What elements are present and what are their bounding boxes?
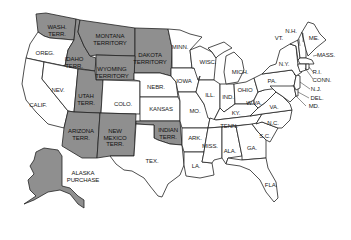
label-wisc: WISC. [200,59,217,66]
label-wyoming: WYOMING TERRITORY [95,66,129,79]
label-ri: R.I. [313,69,322,76]
label-nev: NEV. [51,87,64,94]
label-sc: S.C. [259,133,270,140]
label-wash: WASH. TERR. [48,24,67,37]
label-arizona: ARIZONA TERR. [68,128,94,141]
label-mo: MO. [189,108,200,115]
label-kansas: KANSAS [149,106,173,113]
label-tex: TEX. [146,158,159,165]
label-montana: MONTANA TERRITORY [93,33,127,46]
label-ny: N.Y. [279,61,290,68]
label-nh: N.H. [285,28,297,35]
region-mass [298,58,314,64]
label-nebr: NEBR. [147,84,165,91]
region-fla [226,158,278,202]
region-conn [298,64,306,72]
label-idaho: IDAHO TERR. [65,56,84,69]
label-alaska: ALASKA PURCHASE [67,170,100,183]
label-ga: GA. [247,145,257,152]
label-me: ME. [309,35,319,42]
label-newmexico: NEW MEXICO TERR. [103,128,126,148]
label-md: MD. [309,103,320,110]
label-nj: N.J. [311,86,321,93]
label-mass: MASS. [317,52,335,59]
label-colo: COLO. [114,101,132,108]
label-mich: MICH. [232,69,249,76]
label-la: LA. [192,163,201,170]
label-calif: CALIF. [29,102,46,109]
label-ind: IND. [222,94,234,101]
label-miss: MISS. [202,143,218,150]
label-oreg: OREG. [36,50,55,57]
label-ala: ALA. [224,148,237,155]
label-va: VA. [270,104,279,111]
label-fla: FLA. [265,182,277,189]
label-ky: KY. [232,110,241,117]
label-iowa: IOWA [176,78,191,85]
region-ri [306,64,309,70]
label-ill: ILL. [205,92,215,99]
label-ark: ARK. [188,135,202,142]
label-utah: UTAH TERR. [77,93,95,106]
label-conn: CONN. [313,77,332,84]
label-vt: VT. [275,35,283,42]
label-nc: N.C. [267,120,279,127]
region-colo [101,80,140,114]
label-wva: W.VA. [246,100,262,107]
label-pa: PA. [268,78,277,85]
label-tenn: TENN. [220,123,238,130]
label-indian: INDIAN TERR. [158,127,178,140]
label-minn: MINN. [172,44,189,51]
label-dakota: DAKOTA TERRITORY [133,52,167,65]
label-del: DEL. [311,95,324,102]
label-ohio: OHIO [238,87,253,94]
